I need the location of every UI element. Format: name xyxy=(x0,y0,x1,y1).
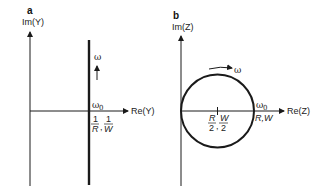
svg-text:W: W xyxy=(104,124,114,134)
panel-b-omega-label: ω xyxy=(234,65,241,75)
panel-a-x-axis-label: Re(Y) xyxy=(131,106,155,116)
panel-b-omega-arrow-icon xyxy=(209,67,232,69)
svg-text:R: R xyxy=(209,113,216,123)
panel-b-y-axis-label: Im(Z) xyxy=(172,22,194,32)
panel-a-label: a xyxy=(27,5,33,16)
panel-a-intercept-label: 1 R , 1 W xyxy=(91,114,114,134)
panel-a: a Im(Y) Re(Y) ω ω 0 1 R , 1 W xyxy=(22,5,155,186)
panel-b-center-label: R 2 , W 2 xyxy=(208,113,230,133)
panel-a-omega-label: ω xyxy=(94,52,101,62)
svg-text:1: 1 xyxy=(106,114,111,124)
panel-b-intercept-label: R,W xyxy=(255,113,274,123)
panel-b-omega0-sub: 0 xyxy=(263,104,267,112)
panel-b-x-axis-label: Re(Z) xyxy=(287,106,310,116)
diagram-canvas: a Im(Y) Re(Y) ω ω 0 1 R , 1 W b Im(Z) Re… xyxy=(0,0,322,195)
svg-text:2: 2 xyxy=(209,123,214,133)
panel-a-y-axis-label: Im(Y) xyxy=(22,17,44,27)
panel-a-omega0-sub: 0 xyxy=(99,104,103,112)
svg-text:R: R xyxy=(92,124,99,134)
svg-text:,: , xyxy=(216,121,219,131)
panel-b-label: b xyxy=(173,10,179,21)
svg-text:1: 1 xyxy=(93,114,98,124)
svg-text:2: 2 xyxy=(221,123,226,133)
svg-text:W: W xyxy=(220,113,230,123)
panel-b: b Im(Z) Re(Z) ω ω 0 R,W R 2 , W 2 xyxy=(172,10,310,186)
svg-text:,: , xyxy=(100,122,103,132)
